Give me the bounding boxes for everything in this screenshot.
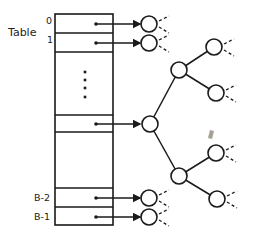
dashed-child-stub bbox=[226, 85, 236, 90]
row-labels: 01B-2B-1 bbox=[34, 15, 53, 222]
row-index-label: 1 bbox=[47, 34, 53, 45]
tree-nodes bbox=[141, 16, 237, 226]
tree-node-circle bbox=[208, 145, 224, 161]
smudge-mark-shape bbox=[208, 130, 214, 139]
dashed-child-stub bbox=[226, 96, 236, 102]
table-label: Table bbox=[7, 26, 37, 39]
tree-node-circle bbox=[171, 62, 187, 78]
dashed-child-stub bbox=[159, 190, 169, 195]
tree-node-circle bbox=[206, 39, 222, 55]
dashed-child-stub bbox=[159, 27, 169, 33]
dashed-child-stub bbox=[227, 191, 237, 196]
dashed-child-stub bbox=[224, 39, 234, 44]
smudge-mark bbox=[208, 130, 214, 139]
ellipsis-dot bbox=[84, 71, 87, 74]
ellipsis-dot bbox=[84, 96, 87, 99]
hash-table-diagram: Table 01B-2B-1 bbox=[0, 0, 270, 241]
tree-node-circle bbox=[141, 209, 157, 225]
dashed-child-stub bbox=[159, 35, 169, 40]
tree-node-circle bbox=[141, 16, 157, 32]
dashed-child-stub bbox=[224, 50, 234, 56]
dashed-child-stub bbox=[159, 209, 169, 214]
tree-node-circle bbox=[208, 85, 224, 101]
ellipsis-dot bbox=[84, 87, 87, 90]
dashed-child-stub bbox=[159, 16, 169, 21]
tree-node-circle bbox=[142, 116, 158, 132]
ellipsis-icon bbox=[84, 71, 87, 99]
tree-node-circle bbox=[171, 168, 187, 184]
row-index-label: B-2 bbox=[34, 192, 50, 203]
tree-node-circle bbox=[141, 35, 157, 51]
dashed-child-stub bbox=[159, 201, 169, 207]
dashed-child-stub bbox=[159, 46, 169, 52]
dashed-child-stub bbox=[227, 202, 237, 208]
tree-edge bbox=[150, 70, 179, 124]
table-box bbox=[55, 14, 113, 225]
tree-node-circle bbox=[141, 190, 157, 206]
row-index-label: 0 bbox=[46, 15, 52, 26]
ellipsis-dot bbox=[84, 79, 87, 82]
tree-node-circle bbox=[209, 191, 225, 207]
row-index-label: B-1 bbox=[34, 211, 50, 222]
dashed-child-stub bbox=[226, 145, 236, 150]
hash-table bbox=[55, 14, 113, 225]
tree-edge bbox=[150, 124, 179, 176]
dashed-child-stub bbox=[226, 156, 236, 162]
dashed-child-stub bbox=[159, 220, 169, 226]
